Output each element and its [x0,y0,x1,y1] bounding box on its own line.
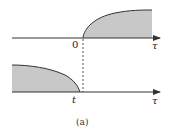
figure-caption: (a) [76,117,88,127]
bottom-axis-label: τ [152,95,158,106]
origin-label: 0 [72,39,78,50]
top-axis-label: τ [152,40,158,51]
t-label: t [72,94,77,105]
top-shaded-region [83,10,152,38]
diagram-figure: 0 τ t τ (a) [0,0,173,134]
